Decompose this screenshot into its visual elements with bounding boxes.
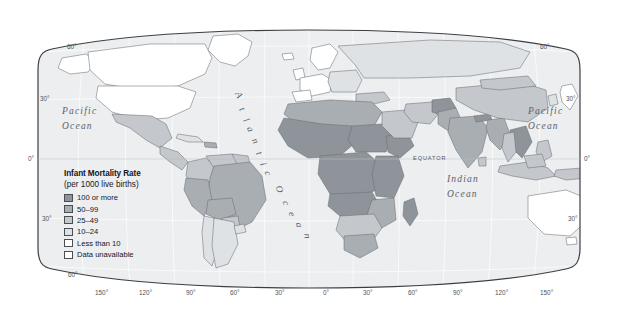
legend-item-10-24: 10–24	[64, 226, 172, 237]
legend-item-25-49: 25–49	[64, 215, 172, 226]
legend-label-less-than-10: Less than 10	[77, 239, 121, 248]
legend-label-50-99: 50–99	[77, 205, 98, 214]
lat-label-right-30s: 30°	[568, 215, 578, 222]
legend-label-25-49: 25–49	[77, 216, 98, 225]
lat-label-left-0: 0°	[28, 155, 34, 162]
legend-label-10-24: 10–24	[77, 227, 98, 236]
lat-label-right-30n: 30°	[566, 95, 576, 102]
country-iceland	[282, 53, 294, 60]
lon-label-0: 0°	[323, 289, 329, 296]
equator-text-label: EQUATOR	[413, 155, 446, 161]
lon-label-60w: 60°	[230, 289, 240, 296]
legend-label-100-or-more: 100 or more	[77, 193, 118, 202]
legend-item-less-than-10: Less than 10	[64, 238, 172, 249]
lon-label-120w: 120°	[139, 289, 152, 296]
lon-label-30e: 30°	[363, 289, 373, 296]
lon-label-150e: 150°	[540, 289, 553, 296]
ocean-label-indian: Indian Ocean	[447, 172, 479, 202]
country-hispaniola	[204, 142, 217, 148]
country-tasmania	[566, 237, 577, 245]
infant-mortality-world-map: Pacific Ocean A t l a n t i c O c e a n …	[0, 0, 618, 324]
lat-label-left-60s: 60°	[68, 271, 78, 278]
legend-item-data-unavailable: Data unavailable	[64, 249, 172, 260]
lon-label-60e: 60°	[408, 289, 418, 296]
lat-label-right-60n: 60°	[540, 43, 550, 50]
legend-title: Infant Mortality Rate	[64, 168, 172, 179]
lon-label-30w: 30°	[275, 289, 285, 296]
lon-label-120e: 120°	[495, 289, 508, 296]
legend-swatch-less-than-10	[64, 239, 73, 247]
country-borneo	[524, 154, 546, 168]
legend-subtitle: (per 1000 live births)	[64, 179, 172, 190]
map-legend: Infant Mortality Rate (per 1000 live bir…	[64, 168, 172, 260]
lat-label-left-30n: 30°	[40, 95, 50, 102]
legend-swatch-100-or-more	[64, 194, 73, 202]
lat-label-left-60n: 60°	[67, 43, 77, 50]
country-sri-lanka	[478, 157, 486, 166]
country-new-zealand	[594, 226, 610, 248]
legend-label-data-unavailable: Data unavailable	[77, 250, 134, 259]
legend-swatch-data-unavailable	[64, 251, 73, 259]
country-uruguay	[234, 224, 246, 234]
legend-swatch-25-49	[64, 216, 73, 224]
legend-swatch-10-24	[64, 228, 73, 236]
legend-swatch-50-99	[64, 205, 73, 213]
lon-label-90w: 90°	[186, 289, 196, 296]
legend-item-100-or-more: 100 or more	[64, 192, 172, 203]
lat-label-right-0: 0°	[584, 155, 590, 162]
lat-label-left-30s: 30°	[42, 215, 52, 222]
ocean-label-atlantic: A t l a n t i c O c e a n	[236, 84, 366, 214]
lon-label-150w: 150°	[95, 289, 108, 296]
ocean-label-pacific-east: Pacific Ocean	[528, 104, 563, 134]
legend-item-50-99: 50–99	[64, 203, 172, 214]
ocean-label-pacific-west: Pacific Ocean	[62, 104, 97, 134]
lon-label-90e: 90°	[453, 289, 463, 296]
